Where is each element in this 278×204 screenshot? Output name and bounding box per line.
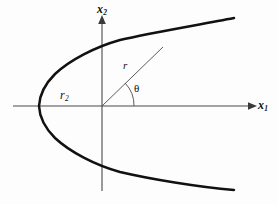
angle-arc [125,83,134,106]
parabola-polar-coordinates-figure: x1 x2 r2 r θ [0,0,278,204]
figure-canvas [0,0,278,204]
x-axis-arrowhead [248,102,257,110]
radius-ray [102,47,163,106]
radius-label: r [123,60,127,71]
parabola-curve [39,18,234,190]
focal-distance-label: r2 [60,89,68,101]
x-axis-label: x1 [258,99,268,111]
x-axis [13,102,257,110]
y-axis-label: x2 [97,3,107,15]
angle-label: θ [134,83,139,94]
